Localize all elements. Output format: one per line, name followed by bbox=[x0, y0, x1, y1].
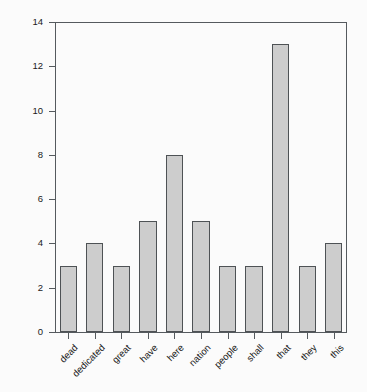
x-axis-tick-label: have bbox=[137, 342, 159, 364]
x-axis-tick-label-text: here bbox=[165, 342, 186, 363]
bar-chart: 02468101214 deaddedicatedgreathaveherena… bbox=[0, 0, 367, 392]
x-axis-tick-label-text: nation bbox=[187, 342, 213, 368]
bar bbox=[113, 266, 130, 332]
y-axis-tick-label: 8 bbox=[38, 148, 43, 161]
bar bbox=[60, 266, 77, 332]
bar bbox=[166, 155, 183, 332]
x-axis-tick-label: nation bbox=[187, 342, 213, 368]
y-axis-tick-label: 6 bbox=[38, 192, 43, 205]
x-axis-tick-mark bbox=[148, 333, 149, 339]
x-axis-tick-label: people bbox=[211, 342, 239, 370]
x-axis-tick-mark bbox=[334, 333, 335, 339]
x-axis-tick-mark bbox=[228, 333, 229, 339]
x-axis-tick-label: dead bbox=[57, 342, 80, 365]
y-axis-tick-mark bbox=[49, 332, 55, 333]
x-axis-tick-label-text: great bbox=[110, 342, 133, 365]
x-axis-tick-mark bbox=[254, 333, 255, 339]
bar bbox=[86, 243, 103, 332]
x-axis-tick-mark bbox=[121, 333, 122, 339]
x-axis-tick-label: shall bbox=[244, 342, 266, 364]
bar bbox=[245, 266, 262, 332]
x-axis-tick-label: this bbox=[327, 342, 345, 360]
x-axis-tick-label: they bbox=[298, 342, 318, 362]
y-axis-tick-label: 2 bbox=[38, 281, 43, 294]
y-axis-tick-label: 0 bbox=[38, 325, 43, 338]
x-axis-tick-label-text: have bbox=[137, 342, 159, 364]
y-axis-tick-label: 14 bbox=[32, 15, 43, 28]
y-axis-tick-label: 4 bbox=[38, 236, 43, 249]
y-axis-tick-label: 10 bbox=[32, 104, 43, 117]
x-axis-tick-label-text: that bbox=[273, 342, 292, 361]
bar bbox=[325, 243, 342, 332]
bar bbox=[272, 44, 289, 332]
x-axis-tick-label-text: dead bbox=[57, 342, 80, 365]
x-axis-tick-mark bbox=[68, 333, 69, 339]
x-axis-tick-mark bbox=[201, 333, 202, 339]
x-axis-tick-mark bbox=[174, 333, 175, 339]
y-axis-tick-label: 12 bbox=[32, 59, 43, 72]
x-axis-tick-label-text: shall bbox=[244, 342, 266, 364]
x-axis-tick-mark bbox=[281, 333, 282, 339]
bar bbox=[299, 266, 316, 332]
x-axis-tick-mark bbox=[95, 333, 96, 339]
x-axis-tick-label: that bbox=[273, 342, 292, 361]
x-axis-tick-mark bbox=[307, 333, 308, 339]
bar bbox=[192, 221, 209, 332]
x-axis-tick-label-text: this bbox=[327, 342, 345, 360]
bar bbox=[219, 266, 236, 332]
x-axis-tick-label: great bbox=[110, 342, 133, 365]
x-axis-tick-label: here bbox=[165, 342, 186, 363]
x-axis-tick-label-text: they bbox=[298, 342, 318, 362]
x-axis-tick-label-text: people bbox=[211, 342, 239, 370]
bar bbox=[139, 221, 156, 332]
bars-layer bbox=[55, 22, 347, 332]
